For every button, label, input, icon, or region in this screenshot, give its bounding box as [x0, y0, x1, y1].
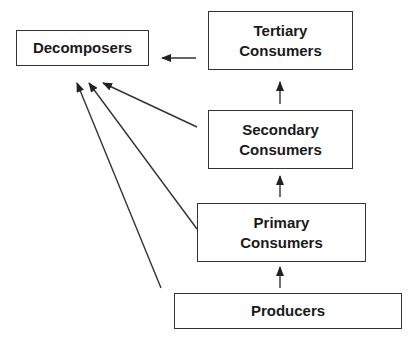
node-tertiary-consumers: Tertiary Consumers [208, 11, 353, 70]
node-producers-label: Producers [251, 301, 325, 321]
node-decomposers-label: Decomposers [33, 38, 132, 58]
node-producers: Producers [174, 293, 402, 329]
node-secondary-line2: Consumers [239, 140, 322, 160]
node-secondary-consumers: Secondary Consumers [208, 110, 353, 169]
node-primary-line2: Consumers [240, 233, 323, 253]
arrow-primary-to-decomposers [89, 83, 197, 229]
arrow-producers-to-decomposers [77, 83, 161, 288]
node-tertiary-line2: Consumers [239, 41, 322, 61]
node-decomposers: Decomposers [16, 30, 149, 66]
node-primary-line1: Primary [240, 213, 323, 233]
node-tertiary-line1: Tertiary [239, 21, 322, 41]
node-primary-consumers: Primary Consumers [197, 203, 366, 262]
node-secondary-line1: Secondary [239, 120, 322, 140]
